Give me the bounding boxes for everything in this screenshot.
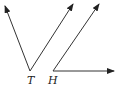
ray-t-right [30, 4, 73, 71]
vertex-label-t: T [27, 74, 36, 87]
angle-diagram: T H [0, 0, 115, 89]
angle-h: H [47, 4, 114, 87]
vertex-label-h: H [47, 74, 58, 87]
angle-t: T [5, 4, 73, 87]
ray-t-left [5, 6, 30, 71]
ray-h-up [53, 4, 99, 71]
